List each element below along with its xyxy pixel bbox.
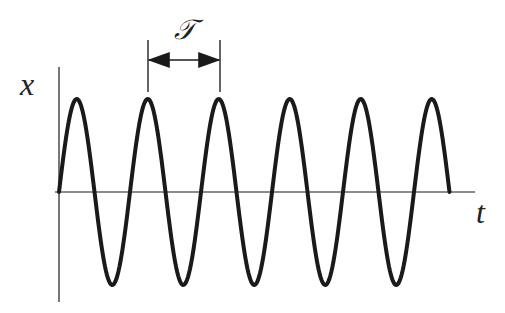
oscillation-diagram: x t 𝒯 [0,0,505,313]
t-axis-label: t [476,194,485,231]
y-axis-label: x [20,66,34,103]
period-label: 𝒯 [174,14,195,47]
diagram-canvas [0,0,505,313]
